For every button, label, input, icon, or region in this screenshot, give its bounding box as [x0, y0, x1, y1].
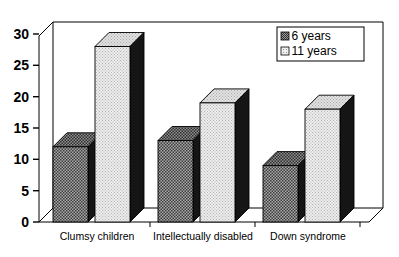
y-axis-label-0: 0: [21, 214, 29, 230]
legend-label-11-years: 11 years: [292, 44, 337, 58]
y-axis-label-20: 20: [13, 89, 29, 105]
y-axis-label-15: 15: [13, 120, 29, 136]
y-axis: 0 5 10 15 20 25 30: [13, 26, 39, 230]
chart-legend[interactable]: 6 years 11 years: [277, 27, 364, 61]
bar-intellectually-disabled-11-years[interactable]: [200, 89, 249, 222]
bar-chart-figure: 0 5 10 15 20 25 30: [0, 0, 399, 257]
y-axis-label-10: 10: [13, 151, 29, 167]
y-axis-label-5: 5: [21, 183, 29, 199]
x-axis-label-down-syndrome: Down syndrome: [270, 230, 346, 242]
bar-clumsy-children-11-years[interactable]: [95, 33, 144, 223]
y-axis-label-30: 30: [13, 26, 29, 42]
bar-down-syndrome-11-years[interactable]: [305, 95, 354, 222]
x-axis-label-clumsy-children: Clumsy children: [60, 230, 135, 242]
legend-swatch-6-years: [281, 32, 289, 40]
chart-canvas: 0 5 10 15 20 25 30: [0, 0, 399, 257]
x-axis-label-intellectually-disabled: Intellectually disabled: [153, 230, 253, 242]
legend-label-6-years: 6 years: [292, 29, 331, 43]
legend-swatch-11-years: [281, 47, 289, 55]
y-axis-label-25: 25: [13, 57, 29, 73]
x-axis: Clumsy children Intellectually disabled …: [60, 222, 360, 242]
